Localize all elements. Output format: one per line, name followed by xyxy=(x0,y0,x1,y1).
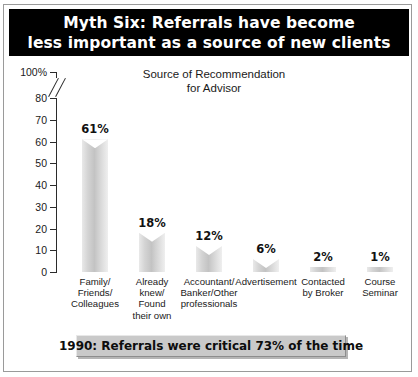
bar[interactable]: 18% xyxy=(139,233,165,272)
y-tick-label: 50 xyxy=(9,158,47,168)
bar[interactable]: 2% xyxy=(310,267,336,272)
x-axis-label-line: Seminar xyxy=(344,287,416,298)
y-tick-mark xyxy=(50,72,57,73)
chart-subtitle-line-2: for Advisor xyxy=(104,82,324,96)
y-tick-mark xyxy=(50,207,57,208)
y-tick-label: 30 xyxy=(9,202,47,212)
footer-banner: 1990: Referrals were critical 73% of the… xyxy=(76,335,346,357)
y-tick-label: 40 xyxy=(9,180,47,190)
y-tick-label: 60 xyxy=(9,137,47,147)
plot-area: Source of Recommendation for Advisor 100… xyxy=(9,62,409,314)
chart-subtitle-line-1: Source of Recommendation xyxy=(104,68,324,82)
bar-value-label: 2% xyxy=(301,250,345,264)
chart-subtitle: Source of Recommendation for Advisor xyxy=(104,68,324,95)
y-tick-mark xyxy=(50,185,57,186)
title-line-2: less important as a source of new client… xyxy=(28,33,391,53)
y-tick-label: 70 xyxy=(9,115,47,125)
y-tick-mark xyxy=(50,229,57,230)
bar-group[interactable]: 1% xyxy=(367,267,393,272)
y-tick-mark xyxy=(50,120,57,121)
y-tick-label: 20 xyxy=(9,224,47,234)
x-axis-label: CourseSeminar xyxy=(344,276,416,298)
bar[interactable]: 1% xyxy=(367,267,393,272)
y-axis-line xyxy=(56,72,57,272)
bar-value-label: 18% xyxy=(130,216,174,230)
x-axis-label-line: Course xyxy=(344,276,416,287)
y-tick-mark xyxy=(50,142,57,143)
x-axis-label-line: their own xyxy=(116,310,188,321)
bar-group[interactable]: 2% xyxy=(310,267,336,272)
y-tick-mark xyxy=(50,272,57,273)
chart-figure: Myth Six: Referrals have become less imp… xyxy=(0,0,418,377)
title-line-1: Myth Six: Referrals have become xyxy=(63,13,355,33)
bar-group[interactable]: 6% xyxy=(253,259,279,272)
bar-notch xyxy=(196,246,222,255)
bar-notch xyxy=(253,259,279,268)
bar[interactable]: 12% xyxy=(196,246,222,272)
y-tick-label: 0 xyxy=(9,267,47,277)
bar-value-label: 12% xyxy=(187,229,231,243)
y-tick-mark xyxy=(50,250,57,251)
bar-notch xyxy=(139,233,165,242)
title-banner: Myth Six: Referrals have become less imp… xyxy=(9,9,409,56)
bar-group[interactable]: 12% xyxy=(196,246,222,272)
bar-notch xyxy=(82,139,108,148)
footer-text: 1990: Referrals were critical 73% of the… xyxy=(59,339,363,353)
bar-value-label: 61% xyxy=(73,122,117,136)
bar-group[interactable]: 61% xyxy=(82,139,108,272)
bar-group[interactable]: 18% xyxy=(139,233,165,272)
x-axis-label-line: professionals xyxy=(173,298,245,309)
bar[interactable]: 6% xyxy=(253,259,279,272)
bar[interactable]: 61% xyxy=(82,139,108,272)
y-tick-label: 10 xyxy=(9,245,47,255)
y-tick-label: 100% xyxy=(9,67,47,77)
y-tick-mark xyxy=(50,163,57,164)
y-tick-label: 80 xyxy=(9,93,47,103)
bar-value-label: 1% xyxy=(358,250,402,264)
x-axis-label-line: Banker/Other xyxy=(173,287,245,298)
y-tick-mark xyxy=(50,98,57,99)
bar-value-label: 6% xyxy=(244,242,288,256)
